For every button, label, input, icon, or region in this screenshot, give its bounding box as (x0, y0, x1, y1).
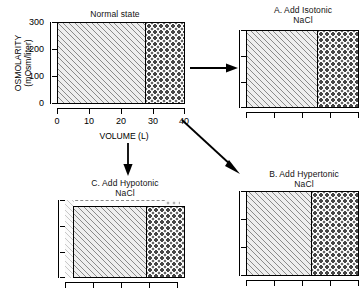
x-axis-tick (274, 113, 275, 118)
x-axis-tick (302, 281, 303, 286)
x-axis-panel-b (246, 280, 359, 287)
icf-compartment-panel-a (246, 30, 318, 108)
x-tick-label-0: 0 (47, 117, 67, 126)
ecf-compartment-normal (145, 22, 185, 104)
plot-area-normal (57, 22, 184, 104)
plot-area-panel-a (246, 30, 359, 108)
y-axis-panel-a (239, 30, 246, 108)
x-axis-tick (65, 283, 66, 288)
x-axis-tick (57, 109, 58, 114)
y-tick-label-100: 100 (18, 72, 44, 81)
x-axis-panel-c (65, 282, 178, 289)
arrow-to-panel-a (190, 60, 240, 76)
ecf-compartment-panel-a (317, 30, 359, 108)
panel-b-title-line2: NaCl (248, 179, 359, 189)
panel-normal-title: Normal state (60, 9, 170, 19)
ecf-compartment-panel-c (146, 206, 185, 278)
x-axis-tick (149, 283, 150, 288)
icf-compartment-panel-c (73, 206, 147, 278)
panel-c-title-line1: C. Add Hypotonic (62, 178, 188, 188)
x-axis-tick (89, 109, 90, 114)
y-tick-label-300: 300 (18, 18, 44, 27)
ecf-compartment-panel-b (311, 191, 359, 276)
x-tick-label-10: 10 (79, 117, 99, 126)
x-tick-label-20: 20 (111, 117, 131, 126)
panel-b-title-line1: B. Add Hypertonic (248, 169, 359, 179)
x-axis-tick (246, 113, 247, 118)
x-axis-panel-a (246, 112, 359, 119)
y-tick-label-200: 200 (18, 45, 44, 54)
x-axis-tick (121, 283, 122, 288)
x-axis-tick (330, 113, 331, 118)
arrow-to-panel-b (180, 118, 246, 180)
icf-compartment-normal (57, 22, 146, 104)
y-axis-title-line1: OSMOLARITY (13, 23, 23, 103)
x-axis-title: VOLUME (L) (64, 131, 184, 141)
panel-c-title-line2: NaCl (62, 188, 188, 198)
y-axis-panel-b (239, 191, 246, 276)
panel-a-title-line1: A. Add Isotonic (248, 5, 358, 15)
x-tick-label-30: 30 (143, 117, 163, 126)
x-axis-tick (274, 281, 275, 286)
x-axis-tick (153, 109, 154, 114)
y-axis-title-line2: (mOsm/liter) (23, 23, 33, 103)
x-axis-tick (121, 109, 122, 114)
x-axis-tick (302, 113, 303, 118)
x-axis-tick (184, 109, 185, 114)
x-axis-tick (246, 281, 247, 286)
plot-area-panel-b (246, 191, 359, 276)
arrow-to-panel-c (120, 143, 136, 177)
x-axis-tick (330, 281, 331, 286)
panel-a-title-line2: NaCl (248, 15, 358, 25)
y-axis-normal (50, 22, 57, 104)
x-axis-tick (177, 283, 178, 288)
plot-area-panel-c (65, 200, 190, 278)
icf-compartment-panel-b (246, 191, 312, 276)
x-axis-normal (57, 108, 185, 115)
y-axis-panel-c (58, 200, 65, 278)
y-tick-label-0: 0 (18, 99, 44, 108)
x-axis-tick (93, 283, 94, 288)
